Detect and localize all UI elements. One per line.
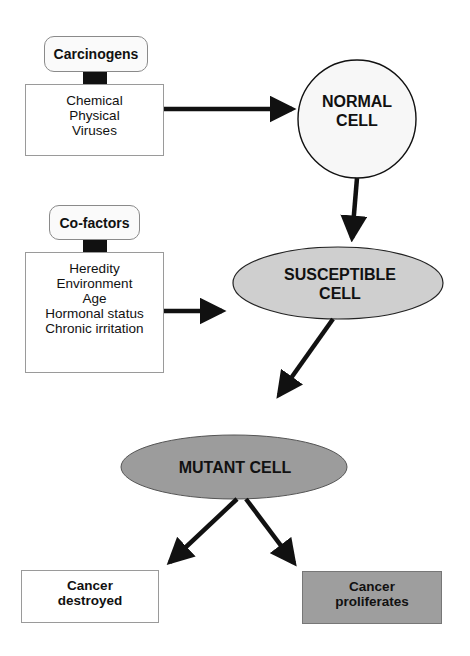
carcinogen-item: Physical [26, 108, 163, 123]
carcinogen-item: Chemical [26, 93, 163, 108]
carcinogens-label-text: Carcinogens [54, 46, 139, 62]
cancer-destroyed-box: Cancer destroyed [21, 570, 159, 623]
cofactors-box: Heredity Environment Age Hormonal status… [25, 252, 164, 373]
carcinogens-box: Chemical Physical Viruses [25, 84, 164, 156]
arrow-normal-to-susceptible [352, 178, 357, 238]
cancer-destroyed-line2: destroyed [22, 593, 158, 608]
normal-cell-line2: CELL [336, 111, 378, 130]
susceptible-cell-line1: SUSCEPTIBLE [284, 265, 396, 284]
mutant-cell-text: MUTANT CELL [179, 458, 292, 477]
cofactors-label-text: Co-factors [59, 215, 129, 231]
arrow-mutant-to-proliferates [246, 499, 294, 563]
cancer-proliferates-line2: proliferates [303, 594, 441, 609]
cofactors-label: Co-factors [49, 205, 140, 240]
carcinogens-label: Carcinogens [44, 36, 148, 72]
cofactor-item: Environment [26, 276, 163, 291]
mutant-cell-label: MUTANT CELL [140, 456, 330, 478]
cofactor-item: Hormonal status [26, 306, 163, 321]
cofactor-item: Chronic irritation [26, 321, 163, 336]
arrow-susceptible-to-mutant [279, 319, 333, 395]
cancer-proliferates-box: Cancer proliferates [302, 571, 442, 624]
normal-cell-label: NORMAL CELL [298, 90, 416, 132]
susceptible-cell-line2: CELL [319, 284, 361, 303]
cancer-destroyed-line1: Cancer [22, 578, 158, 593]
normal-cell-line1: NORMAL [322, 92, 392, 111]
carcinogen-item: Viruses [26, 123, 163, 138]
cofactor-item: Age [26, 291, 163, 306]
arrow-mutant-to-destroyed [170, 499, 237, 562]
susceptible-cell-label: SUSCEPTIBLE CELL [250, 263, 430, 305]
cofactor-item: Heredity [26, 261, 163, 276]
cancer-proliferates-line1: Cancer [303, 579, 441, 594]
